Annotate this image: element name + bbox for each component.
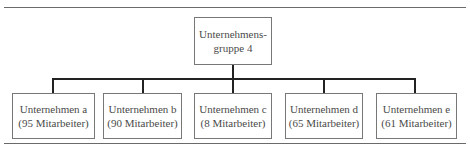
child-connector-d: [323, 78, 325, 93]
child-node-a: Unternehmen a (95 Mitarbeiter): [12, 93, 95, 139]
child-name: Unternehmen a: [20, 102, 88, 116]
child-employees: (8 Mitarbeiter): [200, 116, 265, 130]
child-employees: (90 Mitarbeiter): [107, 116, 178, 130]
child-name: Unternehmen c: [199, 102, 267, 116]
root-node: Unternehmens- gruppe 4: [194, 17, 272, 65]
child-employees: (61 Mitarbeiter): [381, 116, 452, 130]
child-connector-c: [232, 78, 234, 93]
child-node-d: Unternehmen d (65 Mitarbeiter): [285, 93, 363, 139]
child-name: Unternehmen b: [108, 102, 176, 116]
child-connector-e: [414, 78, 416, 93]
bottom-rule: [4, 143, 466, 144]
top-rule: [4, 7, 466, 8]
root-label-line1: Unternehmens-: [199, 27, 267, 41]
child-node-b: Unternehmen b (90 Mitarbeiter): [103, 93, 182, 139]
child-node-c: Unternehmen c (8 Mitarbeiter): [194, 93, 272, 139]
child-node-e: Unternehmen e (61 Mitarbeiter): [376, 93, 457, 139]
child-name: Unternehmen e: [383, 102, 451, 116]
child-employees: (65 Mitarbeiter): [289, 116, 360, 130]
child-name: Unternehmen d: [290, 102, 358, 116]
root-label-line2: gruppe 4: [214, 41, 253, 55]
child-connector-a: [52, 78, 54, 93]
child-employees: (95 Mitarbeiter): [18, 116, 89, 130]
horizontal-connector: [52, 78, 416, 80]
child-connector-b: [142, 78, 144, 93]
